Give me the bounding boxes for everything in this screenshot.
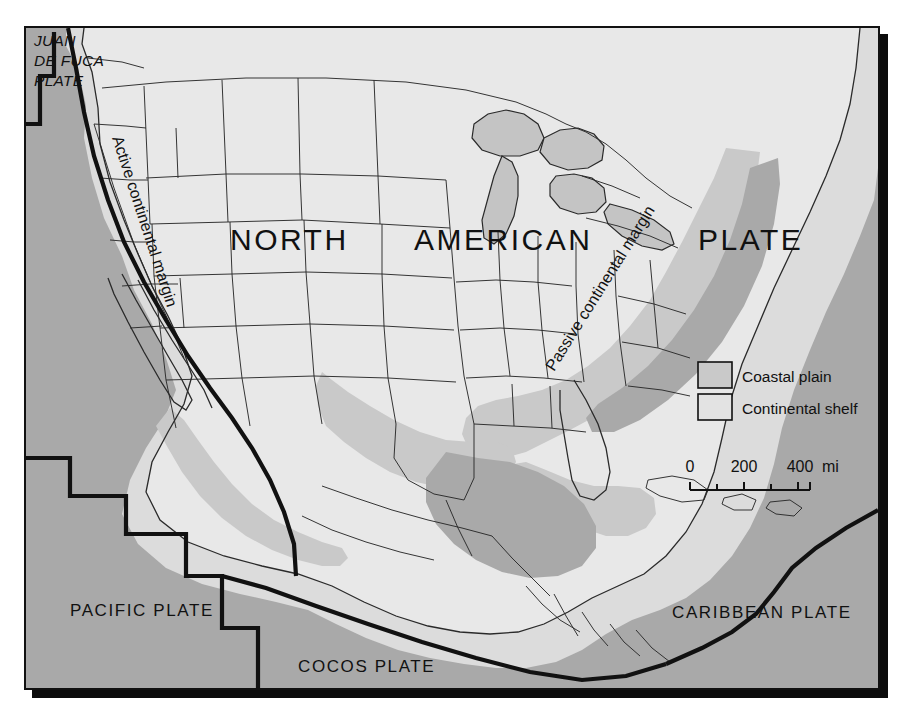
svg-text:Coastal plain: Coastal plain bbox=[742, 368, 832, 385]
map-figure: NORTH AMERICAN PLATE JUAN DE FUCA PLATE … bbox=[0, 0, 899, 720]
map-canvas: NORTH AMERICAN PLATE JUAN DE FUCA PLATE … bbox=[26, 28, 878, 688]
map-frame: NORTH AMERICAN PLATE JUAN DE FUCA PLATE … bbox=[24, 26, 880, 690]
scale-tick-label-0: 0 bbox=[686, 458, 695, 475]
label-plate: PLATE bbox=[698, 223, 803, 256]
label-caribbean-plate: CARIBBEAN PLATE bbox=[672, 603, 852, 622]
label-pacific-plate: PACIFIC PLATE bbox=[70, 601, 214, 620]
svg-text:DE FUCA: DE FUCA bbox=[34, 52, 104, 69]
svg-text:PLATE: PLATE bbox=[34, 72, 84, 89]
svg-text:Continental shelf: Continental shelf bbox=[742, 400, 858, 417]
scale-tick-label-200: 200 bbox=[731, 458, 758, 475]
legend-swatch-continental-shelf bbox=[698, 394, 732, 420]
scale-unit-label: mi bbox=[822, 458, 839, 475]
legend-swatch-coastal-plain bbox=[698, 362, 732, 388]
label-cocos-plate: COCOS PLATE bbox=[298, 657, 435, 676]
svg-text:JUAN: JUAN bbox=[33, 32, 76, 49]
label-american: AMERICAN bbox=[414, 223, 592, 256]
label-north: NORTH bbox=[230, 223, 349, 256]
scale-tick-label-400: 400 bbox=[787, 458, 814, 475]
